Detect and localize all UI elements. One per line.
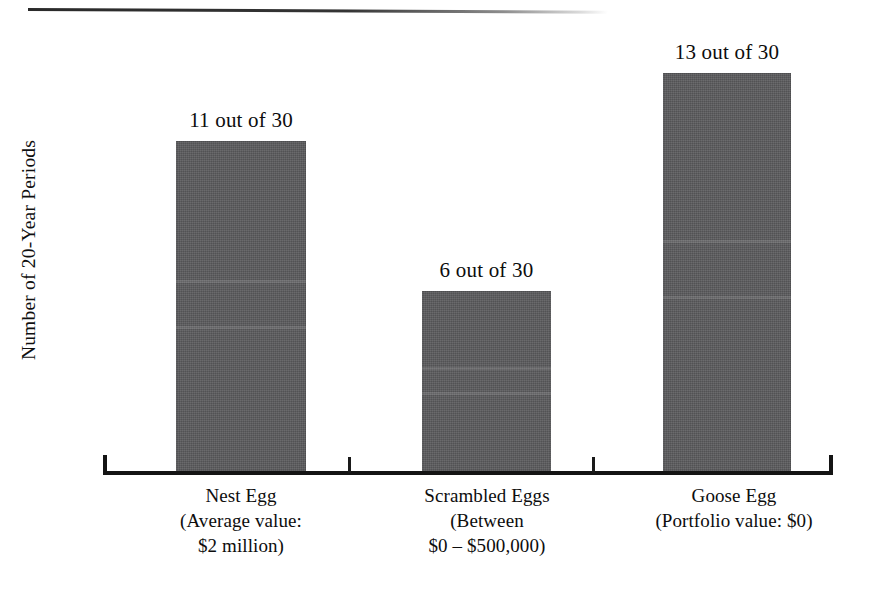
- x-axis-tick-2: [592, 457, 595, 473]
- category-label-line: (Between: [371, 508, 603, 533]
- x-axis-tick-1: [348, 457, 351, 473]
- x-axis-left-cap: [103, 455, 107, 475]
- category-label-line: $0 – $500,000): [371, 533, 603, 558]
- category-label-line: Scrambled Eggs: [371, 483, 603, 508]
- category-label-nest-egg: Nest Egg (Average value: $2 million): [141, 483, 341, 558]
- bar-value-label-nest-egg: 11 out of 30: [176, 108, 306, 133]
- category-label-line: (Portfolio value: $0): [612, 508, 856, 533]
- bar-value-label-goose-egg: 13 out of 30: [663, 40, 791, 65]
- x-axis-line: [103, 471, 833, 475]
- category-label-scrambled-eggs: Scrambled Eggs (Between $0 – $500,000): [371, 483, 603, 558]
- category-label-line: (Average value:: [141, 508, 341, 533]
- bar-nest-egg: [176, 141, 306, 471]
- category-label-line: Goose Egg: [612, 483, 856, 508]
- plot-area: 11 out of 30 6 out of 30 13 out of 30 Ne…: [0, 0, 871, 603]
- bar-scrambled-eggs: [422, 291, 551, 471]
- bar-goose-egg: [663, 73, 791, 471]
- x-axis-right-cap: [829, 455, 833, 475]
- bar-value-label-scrambled-eggs: 6 out of 30: [422, 258, 551, 283]
- category-label-goose-egg: Goose Egg (Portfolio value: $0): [612, 483, 856, 533]
- bar-chart-figure: Number of 20-Year Periods 11 out of 30 6…: [0, 0, 871, 603]
- category-label-line: $2 million): [141, 533, 341, 558]
- category-label-line: Nest Egg: [141, 483, 341, 508]
